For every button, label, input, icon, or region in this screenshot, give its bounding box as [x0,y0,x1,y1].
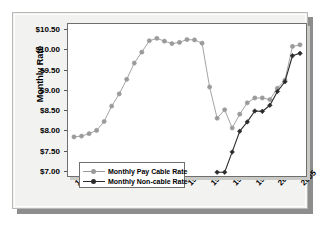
series-marker [117,92,121,96]
series-marker [222,170,227,175]
series-marker [147,39,151,43]
legend-label-pay-cable: Monthly Pay Cable Rate [108,168,187,175]
series-marker [155,36,159,40]
series-marker [215,170,220,175]
y-tick-label: $7.00 [40,167,60,176]
chart-legend: Monthly Pay Cable Rate Monthly Non-cable… [79,162,185,188]
series-marker [72,135,76,139]
series-line [74,38,300,137]
y-tick-label: $9.50 [40,65,60,74]
series-marker [223,108,227,112]
y-tick-label: $8.50 [40,106,60,115]
series-marker [192,38,196,42]
legend-label-non-cable: Monthly Non-cable Rate [108,178,188,185]
series-marker [125,77,129,81]
series-marker [230,126,234,130]
series-marker [95,128,99,132]
y-tick-label: $9.00 [40,85,60,94]
legend-swatch-non-cable [83,177,105,186]
series-marker [185,37,189,41]
y-tick-label: $10.00 [36,45,60,54]
series-marker [132,61,136,65]
series-marker [170,42,174,46]
y-tick-label: $10.50 [36,25,60,34]
legend-item-non-cable: Monthly Non-cable Rate [83,176,188,187]
plot-area: Monthly Pay Cable Rate Monthly Non-cable… [67,23,307,177]
series-marker [238,112,242,116]
series-marker [110,104,114,108]
series-marker [102,119,106,123]
series-marker [200,41,204,45]
series-marker [215,116,219,120]
series-line [217,53,300,172]
series-marker [230,150,235,155]
series-marker [290,44,294,48]
y-tick-label: $7.50 [40,146,60,155]
chart-screenshot: Monthly Rate $10.50$10.00$9.50$9.00$8.50… [0,0,323,228]
series-marker [298,43,302,47]
series-marker [208,85,212,89]
series-marker [253,96,257,100]
series-marker [140,50,144,54]
chart-card: Monthly Rate $10.50$10.00$9.50$9.00$8.50… [12,12,308,209]
y-tick-label: $8.00 [40,126,60,135]
series-marker [260,96,264,100]
series-marker [79,134,83,138]
series-marker [268,97,272,101]
chart-series-svg [68,24,306,176]
legend-swatch-pay-cable [83,167,105,176]
series-marker [87,132,91,136]
series-marker [298,51,303,56]
series-marker [177,40,181,44]
series-marker [245,101,249,105]
series-marker [162,39,166,43]
